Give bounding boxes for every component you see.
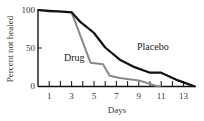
x-tick-label-3: 3 xyxy=(69,91,74,101)
y-tick-label-0: 0 xyxy=(31,81,36,91)
x-tick-label-5: 5 xyxy=(92,91,97,101)
x-tick-label-11: 11 xyxy=(157,91,166,101)
placebo-line xyxy=(38,10,195,87)
y-axis-title: Percent not healed xyxy=(5,15,15,82)
placebo-label: Placebo xyxy=(137,41,169,52)
y-tick-label-50: 50 xyxy=(26,43,36,53)
x-tick-label-7: 7 xyxy=(114,91,119,101)
x-tick-marks xyxy=(49,81,183,86)
y-tick-label-100: 100 xyxy=(22,5,36,15)
healing-chart: Percent not healed 100 50 0 1 3 5 7 9 11… xyxy=(0,0,204,121)
x-axis-title: Days xyxy=(108,105,127,115)
x-tick-label-9: 9 xyxy=(137,91,142,101)
x-tick-label-1: 1 xyxy=(47,91,52,101)
x-tick-label-13: 13 xyxy=(179,91,189,101)
drug-label: Drug xyxy=(64,52,85,63)
